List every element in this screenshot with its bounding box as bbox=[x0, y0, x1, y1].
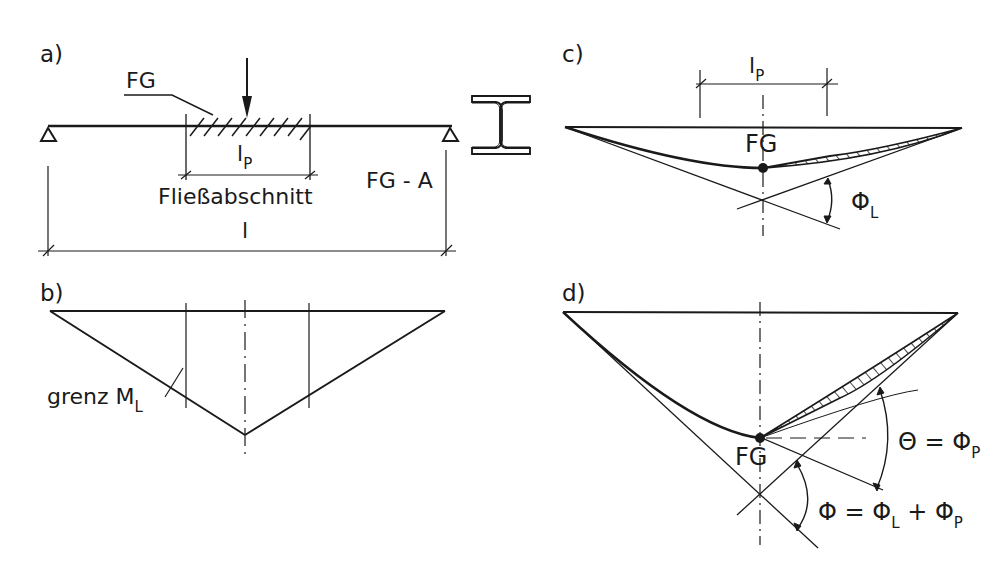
fg-label-c: FG bbox=[745, 132, 777, 156]
span-label: l bbox=[242, 220, 248, 242]
panel-d-label: d) bbox=[562, 282, 586, 305]
panel-b-label: b) bbox=[40, 282, 64, 305]
panel-c-label: c) bbox=[562, 43, 584, 66]
phi-sum-label: Φ = ΦL + ΦP bbox=[818, 500, 963, 524]
plastic-hinge-icon bbox=[755, 433, 765, 443]
panel-b-moment-diagram bbox=[50, 300, 445, 458]
fg-a-label: FG - A bbox=[366, 170, 433, 192]
fliessabschnitt-label: Fließabschnitt bbox=[158, 186, 313, 208]
lp-label: lP bbox=[237, 143, 252, 165]
theta-phi-p-label: Θ = ΦP bbox=[898, 430, 980, 454]
i-beam-section-icon bbox=[472, 96, 530, 154]
lp-label-c: lP bbox=[749, 55, 764, 77]
phi-l-label: ΦL bbox=[851, 190, 878, 214]
fg-label: FG bbox=[126, 70, 156, 92]
grenz-ml-label: grenz ML bbox=[47, 386, 143, 408]
support-left-icon bbox=[41, 128, 56, 141]
fg-label-d: FG bbox=[735, 445, 767, 469]
plastic-hinge-icon bbox=[758, 163, 768, 173]
load-arrow-icon bbox=[242, 96, 252, 118]
panel-a-label: a) bbox=[40, 43, 63, 66]
support-right-icon bbox=[443, 128, 458, 141]
